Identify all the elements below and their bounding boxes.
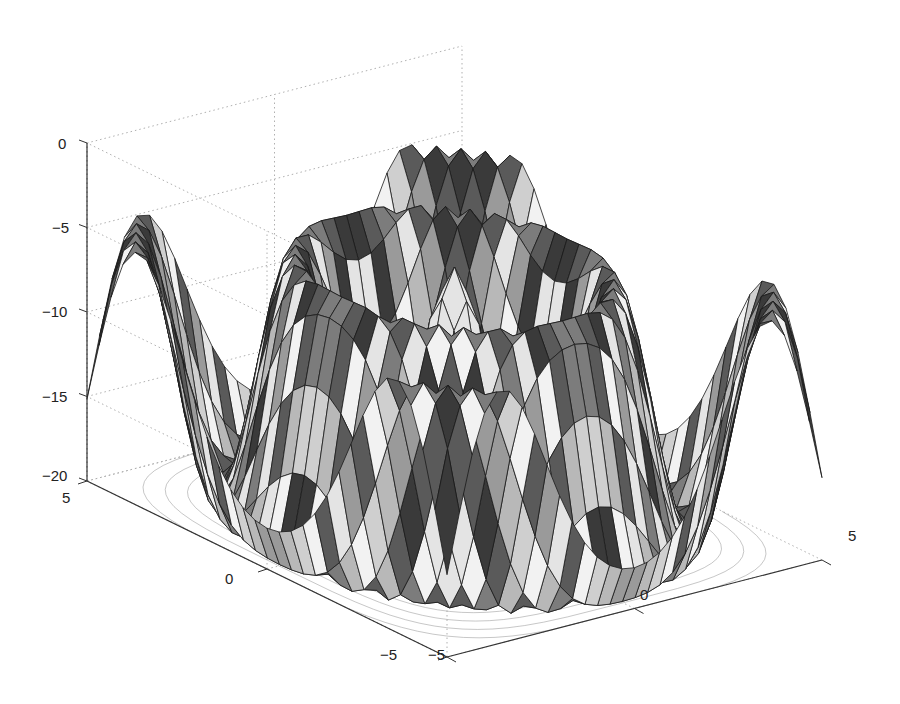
x-tick-label-5: 5 bbox=[848, 527, 856, 544]
y-tick-label-5: 5 bbox=[62, 489, 70, 506]
z-tick-label-minus10: −10 bbox=[42, 303, 67, 320]
z-tick-label-minus15: −15 bbox=[42, 388, 67, 405]
y-tick-label-0: 0 bbox=[225, 570, 233, 587]
y-tick-label-minus5: −5 bbox=[380, 646, 397, 663]
z-tick-label-0: 0 bbox=[58, 135, 66, 152]
surface-plot-figure: 0 −5 −10 −15 −20 5 0 −5 −5 0 5 bbox=[0, 0, 900, 704]
x-tick-label-minus5: −5 bbox=[428, 646, 445, 663]
plot-canvas: 0 −5 −10 −15 −20 5 0 −5 −5 0 5 bbox=[0, 0, 900, 704]
surface-mesh bbox=[87, 145, 822, 613]
x-tick-label-0: 0 bbox=[640, 586, 648, 603]
z-tick-label-minus5: −5 bbox=[52, 219, 69, 236]
z-tick-label-minus20: −20 bbox=[42, 467, 67, 484]
